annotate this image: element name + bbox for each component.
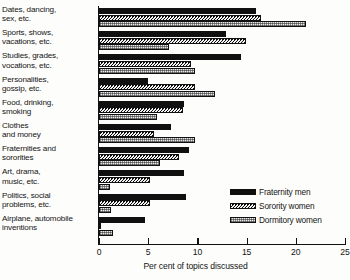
- bar-group: [99, 8, 345, 28]
- bar-group: [99, 78, 345, 98]
- bar-1: [99, 38, 246, 44]
- category-label: Personalities, gossip, etc.: [2, 75, 95, 94]
- bar-1: [99, 154, 179, 160]
- tick-mark: [99, 238, 100, 244]
- bar-group: [99, 101, 345, 121]
- bar-1: [99, 131, 154, 137]
- x-axis-title: Per cent of topics discussed: [0, 261, 349, 271]
- tick-mark: [247, 238, 248, 244]
- bar-2: [99, 21, 306, 27]
- bar-1: [99, 107, 183, 113]
- tick-label: 5: [146, 247, 151, 257]
- bar-0: [99, 147, 189, 153]
- bar-1: [99, 223, 101, 229]
- x-axis-line: [99, 244, 346, 245]
- bar-0: [99, 31, 226, 37]
- bar-2: [99, 137, 195, 143]
- bar-2: [99, 230, 113, 236]
- tick-mark: [345, 238, 346, 244]
- bar-group: [99, 147, 345, 167]
- category-label: Clothes and money: [2, 121, 95, 140]
- tick-label: 20: [291, 247, 300, 257]
- tick-label: 0: [97, 247, 102, 257]
- category-axis-labels: Dates, dancing, sex, etc.Sports, shows, …: [0, 6, 95, 238]
- bar-0: [99, 170, 184, 176]
- bar-2: [99, 44, 169, 50]
- tick-mark: [197, 238, 198, 244]
- category-label: Fraternities and sororities: [2, 144, 95, 163]
- legend-label: Fraternity men: [259, 187, 310, 197]
- bar-0: [99, 101, 184, 107]
- tick-label: 10: [193, 247, 202, 257]
- tick-mark: [148, 238, 149, 244]
- legend: Fraternity menSorority womenDormitory wo…: [230, 186, 346, 228]
- bar-2: [99, 68, 195, 74]
- category-label: Politics, social problems, etc.: [2, 191, 95, 210]
- legend-item: Dormitory women: [230, 214, 346, 226]
- bar-1: [99, 84, 195, 90]
- bar-1: [99, 200, 150, 206]
- bar-0: [99, 78, 148, 84]
- category-label: Food, drinking, smoking: [2, 98, 95, 117]
- bar-1: [99, 15, 261, 21]
- bar-0: [99, 217, 145, 223]
- bar-group: [99, 124, 345, 144]
- legend-item: Sorority women: [230, 200, 346, 212]
- y-axis-line: [98, 6, 99, 245]
- bar-2: [99, 114, 157, 120]
- bar-2: [99, 184, 110, 190]
- category-label: Airplane, automobile inventions: [2, 214, 95, 233]
- bar-0: [99, 124, 171, 130]
- category-label: Studies, grades, vocations, etc.: [2, 51, 95, 70]
- bar-group: [99, 54, 345, 74]
- bar-0: [99, 54, 241, 60]
- legend-swatch-1: [230, 203, 256, 210]
- tick-mark: [296, 238, 297, 244]
- tick-label: 25: [340, 247, 349, 257]
- bar-0: [99, 194, 186, 200]
- tick-label: 15: [242, 247, 251, 257]
- bar-0: [99, 8, 256, 14]
- legend-item: Fraternity men: [230, 186, 346, 198]
- category-label: Art, drama, music, etc.: [2, 167, 95, 186]
- bar-2: [99, 91, 215, 97]
- category-label: Sports, shows, vacations, etc.: [2, 28, 95, 47]
- bar-1: [99, 61, 191, 67]
- legend-swatch-2: [230, 217, 256, 224]
- legend-label: Dormitory women: [259, 215, 322, 225]
- legend-swatch-0: [230, 189, 256, 196]
- bar-1: [99, 177, 150, 183]
- bar-group: [99, 31, 345, 51]
- bar-2: [99, 207, 111, 213]
- legend-label: Sorority women: [259, 201, 315, 211]
- category-label: Dates, dancing, sex, etc.: [2, 5, 95, 24]
- bar-2: [99, 160, 160, 166]
